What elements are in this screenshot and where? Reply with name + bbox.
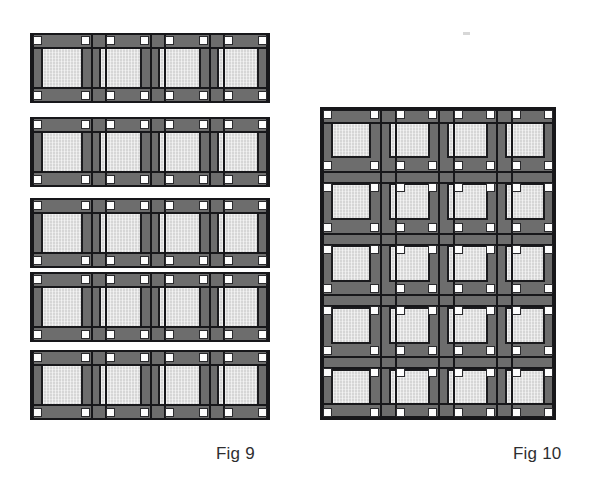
fig10-connector-node: [323, 245, 332, 254]
fig9-connector-node: [140, 408, 149, 417]
fig9-connector-node: [258, 408, 267, 417]
fig9-connector-node: [224, 353, 233, 362]
fig10-connector-node: [370, 245, 379, 254]
fig9-connector-node: [258, 91, 267, 100]
fig10-connector-node: [454, 368, 463, 377]
fig9-connector-node: [140, 330, 149, 339]
fig10-connector-node: [428, 346, 437, 355]
fig10-connector-node: [370, 346, 379, 355]
fig10-connector-node: [323, 161, 332, 170]
fig10-connector-node: [428, 161, 437, 170]
fig9-connector-node: [81, 275, 90, 284]
fig9-strip: [30, 198, 270, 268]
fig10-connector-node: [370, 306, 379, 315]
fig9-strip: [30, 117, 270, 187]
fig10-connector-node: [454, 408, 463, 417]
fig9-connector-node: [258, 330, 267, 339]
fig9-mullion-rule: [209, 200, 211, 266]
fig9-mullion-rule: [91, 274, 93, 340]
fig9-connector-node: [106, 275, 115, 284]
fig9-mullion-rule: [91, 200, 93, 266]
fig10-connector-node: [396, 346, 405, 355]
fig10-connector-node: [428, 245, 437, 254]
fig9-connector-node: [81, 330, 90, 339]
fig9-connector-node: [33, 275, 42, 284]
fig10-connector-node: [486, 306, 495, 315]
fig9-mullion-rule: [91, 35, 93, 101]
fig9-connector-node: [199, 275, 208, 284]
fig10-mullion-rule: [496, 109, 498, 418]
fig10-connector-node: [486, 408, 495, 417]
fig10-glazing-panel: [331, 183, 371, 220]
fig10-connector-node: [486, 161, 495, 170]
fig9-connector-node: [33, 330, 42, 339]
fig9-connector-node: [199, 353, 208, 362]
fig9-connector-node: [81, 201, 90, 210]
fig10-connector-node: [454, 223, 463, 232]
fig9-connector-node: [81, 91, 90, 100]
fig10-connector-node: [370, 284, 379, 293]
fig9-mullion-rule: [150, 200, 152, 266]
fig9-mullion-rule: [91, 119, 93, 185]
fig10-connector-node: [544, 245, 553, 254]
fig10-connector-node: [323, 368, 332, 377]
fig10-connector-node: [370, 368, 379, 377]
fig10-connector-node: [323, 408, 332, 417]
fig10-connector-node: [512, 245, 521, 254]
fig9-connector-node: [165, 91, 174, 100]
fig10-connector-node: [544, 161, 553, 170]
fig9-connector-node: [81, 36, 90, 45]
fig9-connector-node: [258, 175, 267, 184]
fig9-glazing-panel: [41, 47, 83, 89]
fig9-connector-node: [33, 91, 42, 100]
fig10-connector-node: [454, 161, 463, 170]
fig9-connector-node: [106, 201, 115, 210]
fig10-connector-node: [323, 110, 332, 119]
fig10-connector-node: [486, 223, 495, 232]
fig9-strip: [30, 272, 270, 342]
fig10-connector-node: [396, 368, 405, 377]
fig9-connector-node: [106, 120, 115, 129]
fig10-connector-node: [512, 110, 521, 119]
fig10-connector-node: [486, 245, 495, 254]
fig9-glazing-panel: [41, 286, 83, 328]
fig9-strip: [30, 350, 270, 420]
fig9-mullion-rule: [209, 119, 211, 185]
fig10-connector-node: [396, 245, 405, 254]
fig9-connector-node: [106, 408, 115, 417]
fig10-connector-node: [512, 368, 521, 377]
fig10-connector-node: [454, 110, 463, 119]
fig10-connector-node: [454, 183, 463, 192]
fig10-connector-node: [454, 245, 463, 254]
fig10-glazing-panel: [331, 245, 371, 282]
fig9-connector-node: [106, 330, 115, 339]
fig10-connector-node: [512, 306, 521, 315]
fig10-connector-node: [544, 306, 553, 315]
fig10-connector-node: [396, 408, 405, 417]
fig10-connector-node: [512, 183, 521, 192]
fig9-connector-node: [258, 353, 267, 362]
fig10-connector-node: [486, 183, 495, 192]
fig10-connector-node: [454, 346, 463, 355]
fig9-connector-node: [224, 120, 233, 129]
fig10-connector-node: [486, 346, 495, 355]
fig10-connector-node: [544, 346, 553, 355]
fig9-connector-node: [140, 36, 149, 45]
fig9-connector-node: [165, 120, 174, 129]
fig10-connector-node: [512, 408, 521, 417]
fig10-connector-node: [396, 161, 405, 170]
fig9-connector-node: [81, 256, 90, 265]
fig9-connector-node: [199, 120, 208, 129]
fig9-connector-node: [33, 175, 42, 184]
fig10-connector-node: [370, 110, 379, 119]
fig10-connector-node: [544, 110, 553, 119]
fig9-connector-node: [224, 175, 233, 184]
fig9-connector-node: [224, 330, 233, 339]
fig9-connector-node: [140, 353, 149, 362]
fig10-curtain-wall: [320, 107, 556, 420]
fig9-connector-node: [165, 275, 174, 284]
fig10-connector-node: [323, 284, 332, 293]
caption-fig10: Fig 10: [513, 444, 561, 464]
fig9-connector-node: [106, 175, 115, 184]
fig10-connector-node: [544, 408, 553, 417]
